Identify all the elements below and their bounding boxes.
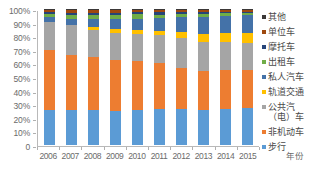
plot-area	[37, 11, 259, 147]
stacked-bar[interactable]	[198, 11, 209, 145]
chart-legend: 其他单位车摩托车出租车私人汽车轨道交通公共汽（电）车非机动车步行	[262, 12, 328, 157]
bar-segment[interactable]	[242, 108, 253, 145]
bar-segment[interactable]	[198, 17, 209, 34]
stacked-bar[interactable]	[66, 11, 77, 145]
legend-item[interactable]: 公共汽（电）车	[262, 102, 304, 122]
bar-segment[interactable]	[220, 109, 231, 145]
bar-segment[interactable]	[66, 55, 77, 110]
stacked-bar[interactable]	[132, 11, 143, 145]
legend-item[interactable]: 非机动车	[262, 127, 304, 138]
bar-segment[interactable]	[198, 71, 209, 110]
bar-segment[interactable]	[66, 110, 77, 145]
bar-segment[interactable]	[154, 18, 165, 31]
bar-segment[interactable]	[154, 35, 165, 64]
bar-segment[interactable]	[198, 34, 209, 41]
legend-item[interactable]: 出租车	[262, 57, 295, 68]
bar-column[interactable]	[238, 11, 259, 145]
bar-segment[interactable]	[66, 19, 77, 26]
y-axis-tick-mark	[33, 106, 36, 107]
bar-segment[interactable]	[242, 15, 253, 33]
bar-segment[interactable]	[176, 68, 187, 109]
bar-segment[interactable]	[110, 33, 121, 60]
legend-label: 非机动车	[268, 127, 304, 138]
bar-segment[interactable]	[198, 110, 209, 145]
y-axis-tick-label: 0	[25, 143, 30, 152]
bar-segment[interactable]	[88, 110, 99, 145]
y-axis-tick-mark	[33, 133, 36, 134]
stacked-bar[interactable]	[110, 11, 121, 145]
bar-segment[interactable]	[176, 17, 187, 32]
bar-segment[interactable]	[220, 42, 231, 71]
stacked-bar[interactable]	[176, 11, 187, 145]
bar-segment[interactable]	[44, 110, 55, 145]
bar-segment[interactable]	[132, 34, 143, 62]
bar-segment[interactable]	[88, 57, 99, 110]
bar-segment[interactable]	[110, 111, 121, 145]
legend-swatch-icon	[262, 75, 266, 79]
bar-segment[interactable]	[110, 60, 121, 111]
y-axis-tick-mark	[33, 11, 36, 12]
legend-item[interactable]: 摩托车	[262, 42, 295, 53]
bar-segment[interactable]	[220, 33, 231, 42]
bar-segment[interactable]	[198, 42, 209, 71]
bar-segment[interactable]	[110, 19, 121, 29]
stacked-bar[interactable]	[242, 11, 253, 145]
legend-swatch-icon	[262, 45, 266, 49]
bar-column[interactable]	[40, 11, 61, 145]
bar-segment[interactable]	[132, 19, 143, 31]
bar-segment[interactable]	[176, 109, 187, 145]
legend-item[interactable]: 步行	[262, 142, 286, 153]
legend-swatch-icon	[262, 145, 266, 149]
bar-segment[interactable]	[132, 61, 143, 109]
bar-column[interactable]	[106, 11, 127, 145]
bar-segment[interactable]	[242, 33, 253, 43]
legend-item[interactable]: 轨道交通	[262, 87, 304, 98]
legend-label: 其他	[268, 12, 286, 23]
stacked-bar[interactable]	[154, 11, 165, 145]
legend-label: 私人汽车	[268, 72, 304, 83]
legend-label: 轨道交通	[268, 87, 304, 98]
x-axis-tick-label: 2008	[82, 150, 103, 164]
stacked-bar[interactable]	[220, 11, 231, 145]
legend-label: 摩托车	[268, 42, 295, 53]
bar-segment[interactable]	[176, 38, 187, 67]
bar-column[interactable]	[172, 11, 193, 145]
y-axis-tick-mark	[33, 93, 36, 94]
bar-segment[interactable]	[154, 109, 165, 145]
bar-segment[interactable]	[88, 30, 99, 57]
bar-column[interactable]	[62, 11, 83, 145]
bar-column[interactable]	[150, 11, 171, 145]
bar-segment[interactable]	[44, 22, 55, 50]
bar-segment[interactable]	[242, 70, 253, 108]
x-axis-tick-label: 2011	[149, 150, 170, 164]
bar-segment[interactable]	[88, 19, 99, 28]
y-axis-tick-mark	[33, 65, 36, 66]
bar-segment[interactable]	[242, 43, 253, 70]
legend-label: 出租车	[268, 57, 295, 68]
x-axis-tick-label: 2006	[38, 150, 59, 164]
bar-segment[interactable]	[132, 110, 143, 145]
legend-label: 单位车	[268, 27, 295, 38]
legend-item[interactable]: 私人汽车	[262, 72, 304, 83]
x-axis-tick-label: 2014	[215, 150, 236, 164]
bar-segment[interactable]	[220, 16, 231, 33]
bar-column[interactable]	[128, 11, 149, 145]
stacked-bar[interactable]	[88, 11, 99, 145]
bar-segment[interactable]	[220, 70, 231, 109]
stacked-bar-chart: 010%20%30%40%50%60%70%80%90%100% 2006200…	[0, 0, 328, 181]
legend-swatch-icon	[262, 90, 266, 94]
y-axis-tick-mark	[33, 25, 36, 26]
bar-column[interactable]	[194, 11, 215, 145]
stacked-bar[interactable]	[44, 11, 55, 145]
legend-item[interactable]: 其他	[262, 12, 286, 23]
bar-segment[interactable]	[66, 25, 77, 54]
y-axis-tick-label: 90%	[14, 20, 30, 29]
x-axis-tick-label: 2009	[104, 150, 125, 164]
bar-segment[interactable]	[154, 63, 165, 109]
x-axis-tick-mark	[259, 147, 260, 150]
bar-column[interactable]	[84, 11, 105, 145]
x-axis-tick-label: 2012	[171, 150, 192, 164]
bar-column[interactable]	[216, 11, 237, 145]
legend-item[interactable]: 单位车	[262, 27, 295, 38]
bar-segment[interactable]	[44, 50, 55, 111]
